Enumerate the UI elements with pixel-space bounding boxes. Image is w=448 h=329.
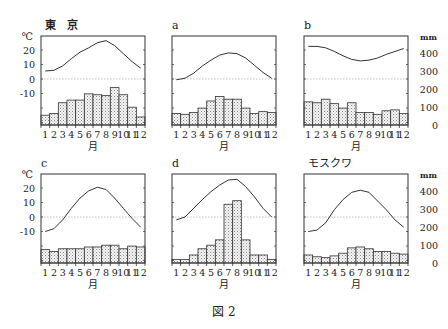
precip-bar [321,99,330,125]
precip-bar [339,108,348,125]
temp-tick-label: 20 [23,45,35,56]
precip-bar [172,113,181,125]
climate-panel-6: モスクワ123456789101112月mm4003002001000 [304,157,438,290]
month-tick-label: 6 [349,129,355,140]
month-tick-label: 6 [349,267,355,278]
month-tick-label: 1 [42,267,48,278]
climate-chart-figure: 東 京123456789101112月℃20100-10a12345678910… [0,0,448,329]
precip-tick-label: 400 [420,48,438,59]
precip-bar [241,108,250,125]
month-tick-label: 3 [191,129,197,140]
precip-bar [356,113,365,125]
precip-bar [119,249,128,263]
precip-bar [391,253,400,263]
precip-bar [128,107,137,125]
precip-bar [347,248,356,263]
precip-bar [102,96,111,125]
precip-bar [136,117,145,125]
precip-bar [356,247,365,263]
precip-tick-label: 100 [420,102,438,113]
precip-bar [172,259,181,263]
precip-bar [365,113,374,125]
precip-bar [84,247,93,263]
precip-bar [382,111,391,125]
month-tick-label: 7 [357,129,363,140]
temp-unit-label: ℃ [22,31,33,42]
month-tick-label: 1 [173,129,179,140]
precip-bar [304,255,313,263]
month-tick-label: 5 [340,267,346,278]
temperature-line [176,53,271,80]
precip-bar [93,247,102,263]
temp-tick-label: 0 [29,74,35,85]
panel-title: a [172,19,179,32]
month-tick-label: 5 [340,129,346,140]
precip-bar [233,99,242,125]
precip-bar [321,258,330,263]
month-tick-label: 2 [182,267,188,278]
precip-bar [41,115,50,125]
precip-tick-label: 300 [420,204,438,215]
month-tick-label: 12 [398,129,410,140]
precip-bar [189,255,198,263]
month-tick-label: 1 [42,129,48,140]
precip-bar [250,113,259,125]
temperature-line [308,190,403,231]
month-axis-label: 月 [351,141,361,152]
temp-tick-label: 20 [23,183,35,194]
month-tick-label: 2 [314,267,320,278]
precip-bar [181,114,190,125]
temp-tick-label: 10 [23,59,35,70]
temp-unit-label: ℃ [22,169,33,180]
month-tick-label: 8 [366,129,372,140]
temp-tick-label: 0 [29,212,35,223]
precip-tick-label: 400 [420,186,438,197]
month-tick-label: 4 [331,129,337,140]
precip-bar [259,112,268,125]
precip-bar [267,259,276,263]
month-tick-label: 3 [323,129,329,140]
precip-bar [267,113,276,125]
precip-bar [259,255,268,263]
panel-title: モスクワ [308,157,352,170]
month-axis-label: 月 [88,279,98,290]
month-tick-label: 3 [191,267,197,278]
precip-bar [84,94,93,125]
precip-bar [365,249,374,263]
month-tick-label: 4 [199,129,205,140]
precip-bar [58,103,67,125]
month-tick-label: 8 [234,267,240,278]
temp-tick-label: 10 [23,197,35,208]
panel-title: b [304,19,311,32]
month-tick-label: 5 [77,267,83,278]
month-tick-label: 12 [266,129,278,140]
precip-bar [233,201,242,263]
month-tick-label: 6 [217,129,223,140]
precip-bar [313,257,322,263]
panel-title: c [41,157,47,170]
precip-bar [93,95,102,125]
month-tick-label: 1 [305,129,311,140]
precip-bar [250,255,259,263]
precip-bar [110,245,119,263]
precip-tick-label: 300 [420,66,438,77]
precip-bar [189,113,198,125]
precip-bar [207,245,216,263]
precip-bar [198,249,207,263]
month-tick-label: 12 [266,267,278,278]
precip-tick-label: 0 [432,258,438,269]
climate-panel-5: d123456789101112月 [172,157,278,290]
panel-title: 東 京 [45,18,78,32]
precip-unit-label: mm [420,32,437,42]
temperature-line [308,46,403,61]
month-tick-label: 6 [86,129,92,140]
month-tick-label: 4 [68,129,74,140]
month-tick-label: 8 [103,129,109,140]
precip-bar [399,113,408,125]
month-tick-label: 6 [86,267,92,278]
month-axis-label: 月 [219,279,229,290]
month-tick-label: 7 [94,267,100,278]
climate-panel-3: b123456789101112月mm4003002001000 [304,19,438,152]
month-tick-label: 2 [182,129,188,140]
precip-bar [391,110,400,125]
